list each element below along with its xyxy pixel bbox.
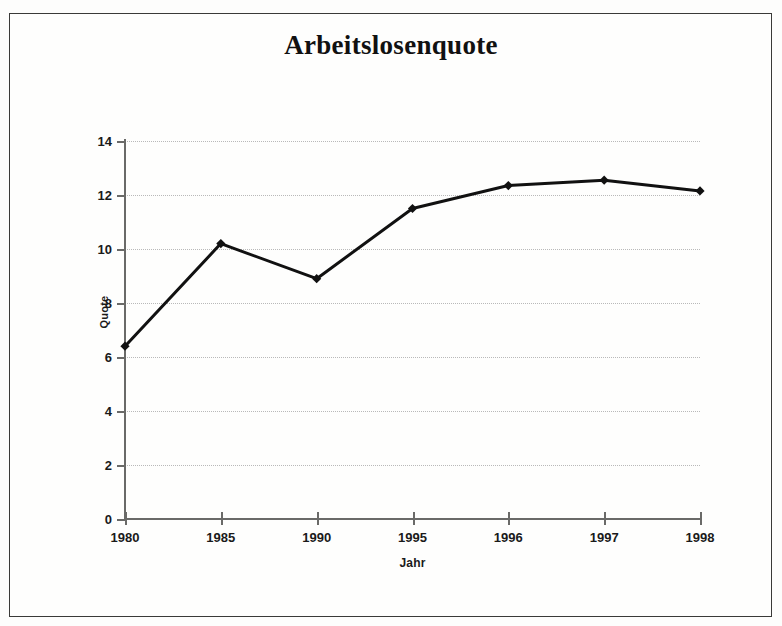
y-axis-tick [117, 249, 125, 251]
gridline-horizontal [125, 357, 700, 358]
gridline-horizontal [125, 195, 700, 196]
x-axis-tick-label: 1996 [468, 531, 548, 544]
y-axis-tick-label: 8 [82, 297, 112, 310]
y-axis-tick [117, 141, 125, 143]
x-axis-tick [604, 512, 606, 525]
x-axis-tick [317, 512, 319, 525]
x-axis-tick-label: 1995 [373, 531, 453, 544]
chart-page: Arbeitslosenquote Quote Jahr 14121086420… [0, 0, 782, 626]
y-axis-tick-label: 4 [82, 405, 112, 418]
y-axis-tick [117, 411, 125, 413]
gridline-horizontal [125, 465, 700, 466]
y-axis-tick-label: 0 [82, 513, 112, 526]
y-axis-tick [117, 195, 125, 197]
x-axis-tick-label: 1980 [85, 531, 165, 544]
y-axis-tick-label: 10 [82, 243, 112, 256]
x-axis-tick-label: 1985 [181, 531, 261, 544]
plot-area [125, 141, 700, 519]
y-axis-tick-label: 2 [82, 459, 112, 472]
x-axis-tick-label: 1997 [564, 531, 644, 544]
x-axis-tick [700, 512, 702, 525]
x-axis-tick-label: 1998 [660, 531, 740, 544]
x-axis-tick [125, 512, 127, 525]
y-axis-tick [117, 519, 125, 521]
gridline-horizontal [125, 411, 700, 412]
y-axis-title: Quote [98, 282, 110, 342]
x-axis-tick [508, 512, 510, 525]
x-axis-tick [413, 512, 415, 525]
y-axis-tick [117, 357, 125, 359]
gridline-horizontal [125, 303, 700, 304]
gridline-horizontal [125, 141, 700, 142]
y-axis-tick [117, 303, 125, 305]
gridline-horizontal [125, 249, 700, 250]
y-axis-tick-label: 12 [82, 189, 112, 202]
x-axis-tick [221, 512, 223, 525]
y-axis-tick-label: 6 [82, 351, 112, 364]
x-axis-title: Jahr [125, 556, 700, 570]
x-axis-tick-label: 1990 [277, 531, 357, 544]
y-axis-tick-label: 14 [82, 135, 112, 148]
y-axis-tick [117, 465, 125, 467]
chart-title: Arbeitslosenquote [0, 30, 782, 61]
